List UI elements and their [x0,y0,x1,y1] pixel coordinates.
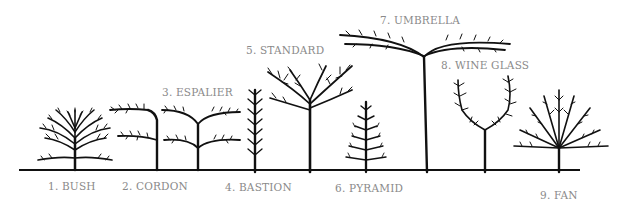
label-pyramid: 6. PYRAMID [335,182,403,194]
bush-tree-icon [38,108,112,170]
standard-tree-icon [268,64,352,172]
label-fan: 9. FAN [540,189,578,201]
pyramid-tree-icon [346,102,386,172]
wine-glass-tree-icon [454,76,516,172]
cordon-tree-icon [110,104,157,170]
bastion-tree-icon [248,90,262,172]
tree-forms-diagram: 1. BUSH 2. CORDON 3. ESPALIER 4. BASTION… [0,0,644,203]
fan-tree-icon [514,90,608,172]
label-standard: 5. STANDARD [246,44,324,56]
label-wine-glass: 8. WINE GLASS [441,59,529,71]
label-cordon: 2. CORDON [122,180,188,192]
label-umbrella: 7. UMBRELLA [380,14,460,26]
espalier-tree-icon [162,106,240,170]
label-espalier: 3. ESPALIER [162,86,233,98]
label-bush: 1. BUSH [48,180,96,192]
tree-illustrations [0,0,644,203]
label-bastion: 4. BASTION [225,181,292,193]
